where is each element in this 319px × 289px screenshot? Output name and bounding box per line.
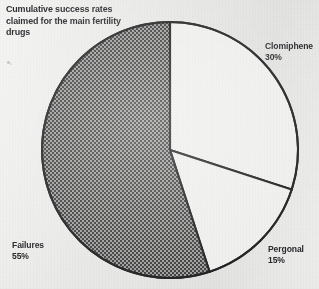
pie-label-failures: Failures 55%: [12, 240, 44, 262]
pie-label-pergonal: Pergonal 15%: [268, 244, 304, 266]
pie-chart-figure: Cumulative success rates claimed for the…: [0, 0, 319, 289]
pie-label-clomiphene: Clomiphene 30%: [265, 41, 313, 63]
